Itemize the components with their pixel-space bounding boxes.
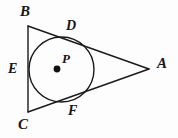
inscribed-circle — [29, 37, 94, 102]
tangent-point-label-f: F — [68, 104, 77, 118]
triangle-sides — [28, 26, 149, 112]
side-ba-line — [28, 26, 149, 69]
center-point-dot — [54, 66, 61, 73]
vertex-label-a: A — [157, 56, 167, 71]
vertex-label-c: C — [18, 117, 28, 132]
geometry-figure: B C A D E F P — [0, 0, 178, 138]
tangent-point-label-e: E — [8, 62, 17, 76]
tangent-point-label-d: D — [66, 19, 76, 33]
center-label-p: P — [62, 52, 70, 66]
vertex-label-b: B — [20, 4, 30, 19]
side-ca-line — [28, 69, 149, 112]
